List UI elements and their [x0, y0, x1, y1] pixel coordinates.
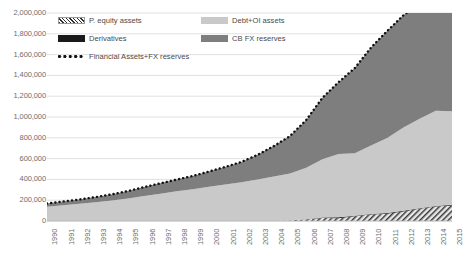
x-axis-tick-label: 1995: [131, 229, 140, 245]
stacked-area-chart: 2,000,0001,800,0001,600,0001,400,0001,20…: [0, 0, 466, 261]
legend-item-financial-assets-fx-reserves[interactable]: Financial Assets+FX reserves: [58, 52, 189, 61]
legend-label: Financial Assets+FX reserves: [89, 52, 189, 61]
black-swatch-icon: [58, 35, 85, 42]
legend-label: Debt+OI assets: [232, 16, 285, 25]
x-axis-tick-label: 1998: [180, 229, 189, 245]
dark-gray-swatch-icon: [201, 35, 228, 42]
x-axis-tick-label: 1993: [99, 229, 108, 245]
x-axis-tick-label: 2007: [326, 229, 335, 245]
hatched-swatch-icon: [58, 17, 85, 24]
x-axis-tick-label: 1997: [164, 229, 173, 245]
legend-item-cb-fx-reserves[interactable]: CB FX reserves: [201, 34, 286, 43]
x-axis-tick-label: 2010: [374, 229, 383, 245]
x-axis-tick-label: 1996: [148, 229, 157, 245]
x-axis-tick-label: 1990: [50, 229, 59, 245]
x-axis-tick-label: 1999: [196, 229, 205, 245]
x-axis-tick-label: 2012: [407, 229, 416, 245]
x-axis-tick-label: 2009: [358, 229, 367, 245]
x-axis-tick-label: 2000: [212, 229, 221, 245]
legend-label: CB FX reserves: [232, 34, 286, 43]
x-axis-tick-label: 2013: [423, 229, 432, 245]
x-axis-tick-label: 2008: [342, 229, 351, 245]
x-axis-tick-label: 2002: [245, 229, 254, 245]
x-axis-tick-label: 1992: [83, 229, 92, 245]
dotted-line-swatch-icon: [58, 53, 85, 60]
x-axis-tick-label: 2011: [391, 229, 400, 245]
legend-item-p-equity-assets[interactable]: P. equity assets: [58, 16, 142, 25]
light-gray-swatch-icon: [201, 17, 228, 24]
legend-label: Derivatives: [89, 34, 127, 43]
x-axis-tick-label: 2005: [293, 229, 302, 245]
x-axis-tick-label: 2004: [277, 229, 286, 245]
x-axis-tick-label: 2001: [229, 229, 238, 245]
x-axis-tick-label: 2015: [455, 229, 464, 245]
x-axis-tick-label: 2014: [439, 229, 448, 245]
x-axis-tick-label: 2003: [261, 229, 270, 245]
legend-item-debt-oi-assets[interactable]: Debt+OI assets: [201, 16, 285, 25]
legend-label: P. equity assets: [89, 16, 142, 25]
x-axis-tick-label: 1991: [67, 229, 76, 245]
x-axis-tick-label: 2006: [310, 229, 319, 245]
legend-item-derivatives[interactable]: Derivatives: [58, 34, 127, 43]
x-axis-tick-label: 1994: [115, 229, 124, 245]
